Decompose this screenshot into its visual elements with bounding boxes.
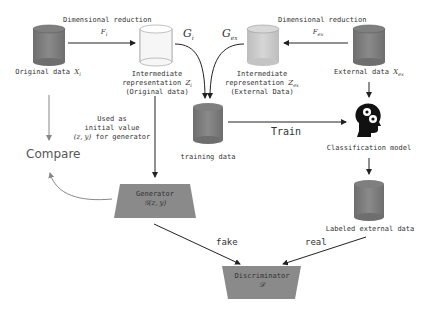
compare-label: Compare (26, 147, 80, 162)
real-label: real (305, 237, 327, 248)
train-label: Train (271, 126, 301, 139)
training-data-cylinder (193, 103, 223, 144)
external-data-cylinder (353, 25, 385, 66)
brain-gears-icon (355, 104, 381, 137)
intermediate-external-cylinder (247, 25, 279, 66)
f-i-label: Fi (101, 28, 107, 38)
fake-label: fake (216, 237, 238, 248)
dim-reduction-right-label: Dimensional reduction (278, 16, 367, 25)
intermediate-original-label: Intermediate representation Zi (Original… (122, 70, 192, 97)
intermediate-external-label: Intermediate representation Zex (Externa… (225, 70, 299, 97)
classification-model-label: Classification model (327, 144, 411, 153)
f-ex-label: Fex (313, 28, 324, 38)
arrow-generator-to-compare (50, 173, 112, 200)
original-data-cylinder (33, 25, 65, 66)
discriminator-label: Discriminator 𝒟 (235, 272, 290, 290)
labeled-external-data-cylinder (354, 180, 384, 221)
used-as-label: Used as initial value (z, y) for generat… (74, 115, 151, 141)
dim-reduction-left-label: Dimensional reduction (63, 16, 152, 25)
original-data-label: Original data Xi (15, 68, 81, 78)
training-data-label: training data (181, 153, 236, 162)
external-data-label: External data Xex (334, 68, 404, 78)
labeled-external-data-label: Labeled external data (326, 225, 415, 234)
g-i-label: Gi (183, 27, 194, 42)
generator-label: Generator 𝒢(z, y) (136, 190, 174, 208)
intermediate-original-cylinder (140, 25, 172, 66)
g-ex-label: Gex (222, 27, 238, 42)
